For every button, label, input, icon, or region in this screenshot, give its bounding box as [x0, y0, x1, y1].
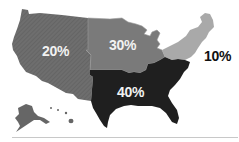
label-west: 20% [42, 44, 69, 58]
label-midwest: 30% [109, 38, 136, 52]
label-south: 40% [117, 85, 144, 99]
label-northeast: 10% [204, 49, 231, 63]
baseline-rule [12, 137, 238, 138]
region-hawaii[interactable] [50, 107, 74, 123]
region-alaska[interactable] [15, 104, 50, 132]
us-region-map [0, 0, 239, 142]
